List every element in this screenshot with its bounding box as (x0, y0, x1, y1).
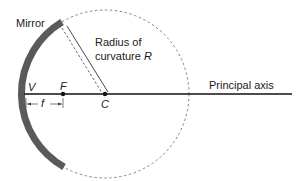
focal-length-label: f (41, 97, 44, 110)
arrowhead-right (58, 103, 62, 106)
principal-axis-label: Principal axis (209, 79, 274, 92)
arrowhead-left (27, 103, 31, 106)
focal-point-label: F (60, 80, 67, 93)
radius-symbol: R (144, 50, 152, 62)
center-label: C (101, 98, 109, 111)
radius-label-line2: curvature R (95, 50, 152, 63)
diagram-canvas: Mirror Radius of curvature R V F C f Pri… (0, 0, 305, 181)
vertex-label: V (28, 81, 35, 94)
mirror-label: Mirror (16, 17, 45, 30)
radius-label-text: curvature (95, 50, 141, 62)
center-point-dot (103, 92, 107, 96)
radius-label-line1: Radius of (95, 36, 141, 49)
